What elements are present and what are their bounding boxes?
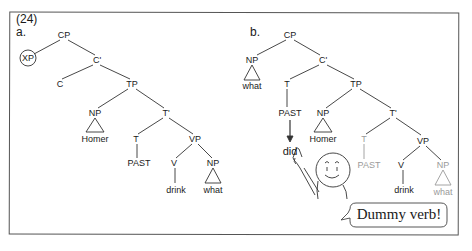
node-vp: VP [417, 137, 429, 146]
branch-tbar-vp [396, 118, 421, 135]
leaf-homer: Homer [81, 135, 108, 144]
example-number: (24) [16, 13, 37, 25]
branch-vp-np [426, 146, 441, 160]
branch-cbar-t [290, 65, 319, 79]
eyebrow-left [325, 162, 329, 164]
leaf-past-moved: PAST [279, 109, 302, 118]
branch-vp-v [403, 146, 420, 160]
leaf-did: did [283, 146, 298, 157]
triangle-np-what [205, 168, 221, 183]
body-right [343, 185, 347, 199]
branch-cbar-tp [327, 65, 354, 79]
leaf-what-moved: what [242, 82, 261, 91]
branch-tbar-vp [169, 118, 193, 134]
node-np-moved: NP [246, 56, 259, 65]
branch-vp-np [198, 144, 212, 158]
branch-tp-np [326, 89, 352, 108]
arrow-head [287, 136, 293, 142]
node-t-bar: T' [162, 109, 169, 118]
tree-b-label: b. [250, 26, 260, 38]
syntax-tree-figure: (24) a. b. CP XP C' C TP NP Homer T' T P… [0, 0, 472, 251]
tree-a-label: a. [16, 26, 26, 38]
branch-cbar-c [62, 65, 93, 79]
node-v: V [398, 161, 404, 170]
leaf-past-trace: PAST [358, 161, 381, 170]
branch-tbar-t [366, 118, 390, 134]
leaf-past: PAST [128, 159, 151, 168]
node-c: C [57, 80, 64, 89]
triangle-np-homer [86, 118, 104, 132]
branch-cp-cbar [294, 40, 320, 55]
cartoon-figure [293, 148, 350, 199]
leaf-what-trace: what [433, 188, 452, 197]
node-c-bar: C' [93, 56, 101, 65]
node-t-bar: T' [389, 109, 396, 118]
leaf-homer: Homer [309, 135, 336, 144]
branch-vp-v [176, 144, 192, 158]
leaf-drink: drink [394, 186, 414, 195]
node-cp: CP [58, 31, 71, 40]
triangle-np-what-trace [435, 170, 451, 185]
branch-tp-tbar [360, 89, 391, 108]
triangle-np-homer [314, 118, 332, 132]
triangle-np-what-moved [244, 65, 260, 80]
smile [325, 175, 339, 178]
node-v: V [171, 159, 177, 168]
node-xp: XP [22, 54, 34, 63]
branch-tp-np [98, 89, 128, 108]
leaf-what: what [203, 186, 222, 195]
branch-cp-cbar [68, 40, 95, 55]
branch-cp-xp [34, 40, 60, 54]
face-circle [316, 153, 350, 187]
branch-cp-np [257, 40, 286, 55]
node-np-object: NP [207, 159, 220, 168]
node-np-trace: NP [437, 161, 450, 170]
node-np-subject: NP [89, 109, 102, 118]
node-cp: CP [284, 31, 297, 40]
node-np-subject: NP [317, 109, 330, 118]
eyebrow-right [335, 162, 339, 164]
node-t-moved: T [284, 80, 290, 89]
node-tp: TP [350, 80, 362, 89]
node-vp: VP [189, 135, 201, 144]
node-c-bar: C' [319, 56, 327, 65]
branch-tbar-t [138, 118, 163, 134]
leaf-drink: drink [166, 186, 186, 195]
branch-tp-tbar [136, 89, 164, 108]
node-t-trace: T [361, 135, 367, 144]
node-t: T [133, 135, 139, 144]
node-tp: TP [126, 80, 138, 89]
speech-bubble-text: Dummy verb! [357, 206, 442, 223]
branch-cbar-tp [100, 65, 130, 79]
